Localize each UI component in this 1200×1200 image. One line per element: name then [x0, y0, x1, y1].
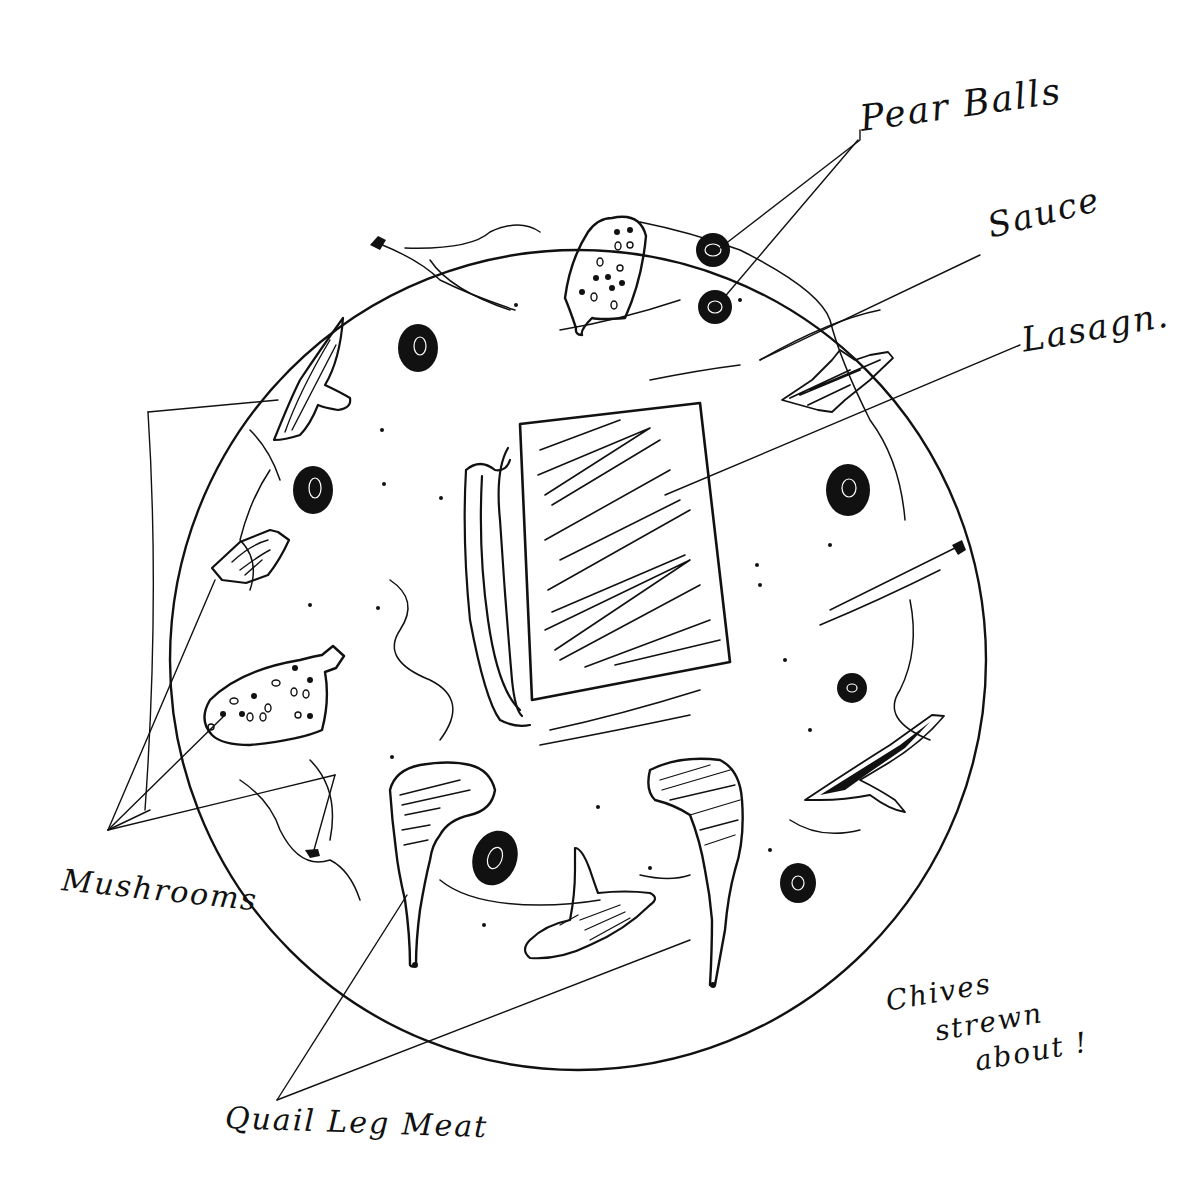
- plate-outline: [170, 250, 986, 1070]
- sauce-dots: [308, 298, 832, 927]
- mushrooms: [204, 217, 646, 745]
- lasagna: [465, 403, 730, 745]
- pear-ball: [780, 863, 816, 903]
- quail-leg-right: [648, 759, 742, 988]
- quail-leg-meat: [390, 759, 743, 988]
- pear-ball: [293, 466, 333, 514]
- chive-marks: [305, 236, 966, 858]
- quail-leg-center: [525, 848, 655, 958]
- pear-ball: [696, 233, 730, 267]
- mushroom-angular-left-top: [274, 318, 350, 440]
- pear-ball: [398, 324, 438, 372]
- mushroom-spotted-left: [204, 646, 344, 745]
- pear-ball: [465, 824, 525, 892]
- pear-ball: [826, 464, 870, 516]
- mushroom-spotted-top: [565, 217, 646, 335]
- chive-bundle-bottom-right: [805, 715, 944, 812]
- chive-bundles: [782, 350, 944, 812]
- pear-ball: [837, 673, 867, 703]
